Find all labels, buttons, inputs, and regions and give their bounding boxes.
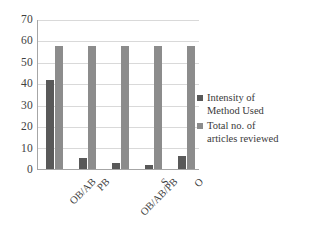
bar-group-pb xyxy=(71,20,104,169)
bar-series2-ob-ab-pb xyxy=(121,46,129,169)
x-axis-label-o: O xyxy=(192,176,205,189)
bar-series1-pb xyxy=(79,158,87,169)
y-axis-tick-label: 70 xyxy=(0,14,33,26)
bar-group-ob-ab-pb xyxy=(104,20,137,169)
bar-group-ob-ab xyxy=(38,20,71,169)
y-axis-tick-label: 40 xyxy=(0,78,33,90)
legend-label-series2: Total no. of articles reviewed xyxy=(207,120,278,145)
bar-series1-ob-ab-pb xyxy=(112,163,120,169)
bar-series1-ob-ab xyxy=(46,80,54,169)
x-axis-line xyxy=(38,169,199,170)
x-axis-label-pb: PB xyxy=(95,176,112,193)
bar-series1-o xyxy=(178,156,186,169)
bar-series1-s xyxy=(145,165,153,169)
legend-swatch-icon-series2 xyxy=(197,123,203,129)
y-axis-tick-label: 20 xyxy=(0,121,33,133)
bar-chart: 70 60 50 40 30 20 10 0 xyxy=(0,0,309,226)
plot-area xyxy=(37,20,199,170)
x-axis-label-ob-ab-pb: OB/AB/PB xyxy=(138,176,180,218)
legend-label-series1-line1: Intensity of xyxy=(207,92,255,103)
legend-label-series1-line2: Method Used xyxy=(207,105,264,116)
legend-swatch-icon-series1 xyxy=(197,95,203,101)
y-axis-tick-label: 60 xyxy=(0,35,33,47)
bar-series2-s xyxy=(154,46,162,169)
bar-series2-o xyxy=(187,46,195,169)
y-axis-tick-label: 10 xyxy=(0,143,33,155)
legend-label-series2-line2: articles reviewed xyxy=(207,133,278,144)
legend-entry-total: Total no. of articles reviewed xyxy=(197,120,307,145)
y-axis-tick-label: 30 xyxy=(0,100,33,112)
x-axis-label-ob-ab: OB/AB xyxy=(67,176,97,206)
y-axis-tick-label: 0 xyxy=(0,164,33,176)
legend-entry-intensity: Intensity of Method Used xyxy=(197,92,307,117)
chart-legend: Intensity of Method Used Total no. of ar… xyxy=(197,92,307,148)
bar-group-s xyxy=(137,20,170,169)
legend-label-series1: Intensity of Method Used xyxy=(207,92,264,117)
y-axis-tick-label: 50 xyxy=(0,57,33,69)
bar-series2-pb xyxy=(88,46,96,169)
bar-series2-ob-ab xyxy=(55,46,63,169)
legend-label-series2-line1: Total no. of xyxy=(207,120,256,131)
